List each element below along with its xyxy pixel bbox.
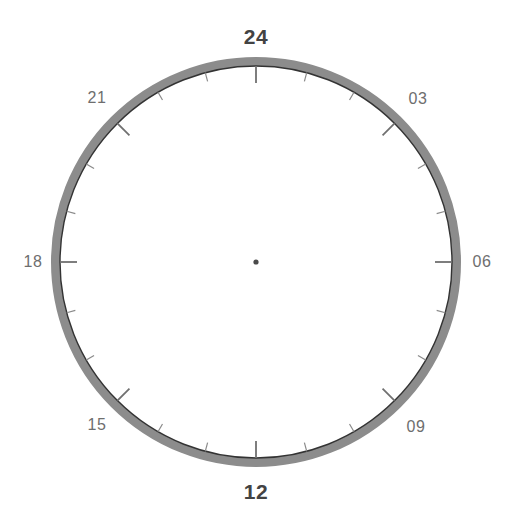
minor-tick [205,443,207,452]
minor-tick [86,164,94,169]
minor-tick [418,356,426,361]
major-tick [383,123,395,135]
hour-label-15: 15 [88,417,107,433]
minor-tick [350,424,355,432]
hour-label-18: 18 [24,254,43,270]
hour-label-21: 21 [88,90,107,106]
major-tick [117,389,129,401]
hour-label-03: 03 [409,91,428,107]
clock-dial-figure: 2403060912151821 [0,0,511,524]
minor-tick [67,310,76,312]
minor-tick [67,211,76,213]
hour-label-12: 12 [244,481,268,502]
minor-tick [158,424,163,432]
minor-tick [158,92,163,100]
minor-tick [437,310,446,312]
major-tick [383,389,395,401]
minor-tick [304,443,306,452]
minor-tick [304,73,306,82]
minor-tick [418,164,426,169]
minor-tick [205,73,207,82]
center-dot [253,259,258,264]
minor-tick [437,211,446,213]
major-tick [117,123,129,135]
minor-tick [86,356,94,361]
minor-tick [350,92,355,100]
hour-label-09: 09 [407,419,426,435]
hour-label-06: 06 [473,254,492,270]
hour-label-24: 24 [244,26,268,47]
dial-graphic [0,0,511,524]
